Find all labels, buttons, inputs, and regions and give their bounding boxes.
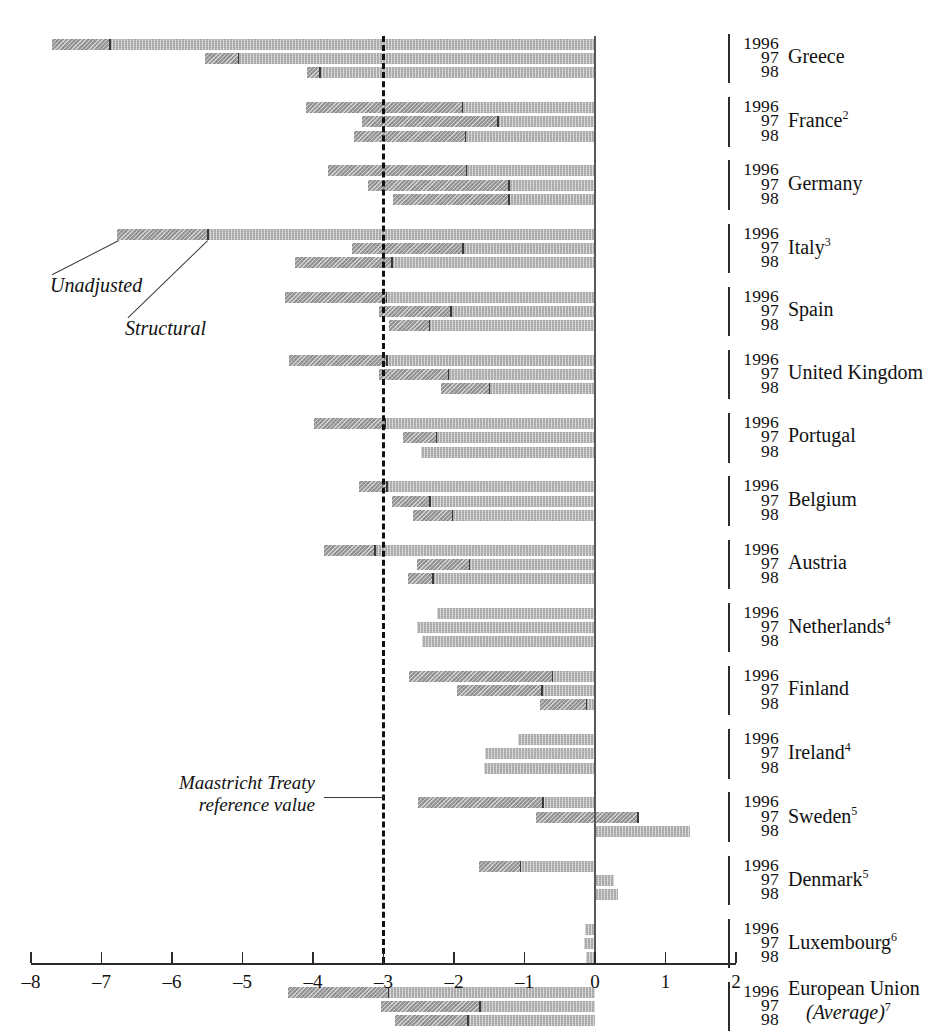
structural-boundary-marker: [207, 229, 209, 240]
label-group-rule: [728, 34, 730, 83]
bar-row: [393, 194, 595, 205]
zero-axis-line: [594, 36, 596, 963]
bar-segment-unadjusted: [408, 573, 595, 584]
bar-segment-unadjusted: [422, 636, 595, 647]
bar-segment-unadjusted: [52, 39, 595, 50]
year-label-98: 98: [733, 820, 779, 841]
x-axis-tick-label: –6: [152, 971, 192, 993]
label-group-rule: [728, 540, 730, 589]
x-axis-tick: [594, 952, 595, 963]
bar-row: [408, 573, 595, 584]
bar-segment-structural: [479, 861, 520, 872]
structural-boundary-marker: [374, 545, 376, 556]
bar-row: [484, 763, 595, 774]
bar-segment-structural: [381, 1001, 480, 1012]
structural-boundary-marker: [541, 685, 543, 696]
x-axis-tick: [453, 952, 454, 963]
country-label-greece: Greece: [788, 45, 845, 68]
bar-row: [117, 229, 595, 240]
bar-row: [306, 102, 595, 113]
label-group-rule: [728, 287, 730, 336]
x-axis-tick-label: –1: [505, 971, 545, 993]
structural-boundary-marker: [508, 180, 510, 191]
footnote-marker: 6: [891, 930, 897, 944]
footnote-marker: 7: [885, 1000, 891, 1014]
country-label-france: France2: [788, 108, 848, 132]
unadjusted-leader-line: [52, 240, 119, 275]
label-group-rule: [728, 982, 730, 1031]
x-axis-tick: [524, 952, 525, 963]
bar-segment-structural: [409, 671, 553, 682]
year-label-98: 98: [733, 567, 779, 588]
structural-boundary-marker: [386, 481, 388, 492]
bar-row: [418, 797, 595, 808]
bar-segment-unadjusted: [518, 734, 595, 745]
label-group-rule: [728, 603, 730, 652]
x-axis-line: [31, 963, 736, 965]
structural-boundary-marker: [489, 383, 491, 394]
bar-segment-unadjusted: [584, 938, 595, 949]
structural-boundary-marker: [637, 812, 639, 823]
structural-boundary-marker: [429, 320, 431, 331]
bar-segment-structural: [403, 432, 436, 443]
label-group-rule: [728, 476, 730, 525]
year-label-98: 98: [733, 883, 779, 904]
footnote-marker: 5: [862, 867, 868, 881]
x-axis-tick-label: 0: [575, 971, 615, 993]
structural-boundary-marker: [319, 67, 321, 78]
structural-boundary-marker: [469, 559, 471, 570]
bar-row: [379, 306, 595, 317]
country-label-spain: Spain: [788, 298, 834, 321]
country-label-austria: Austria: [788, 551, 847, 574]
year-label-98: 98: [733, 757, 779, 778]
bar-segment-structural: [117, 229, 208, 240]
year-label-98: 98: [733, 377, 779, 398]
x-axis-tick: [171, 952, 172, 963]
bar-segment-structural: [540, 699, 587, 710]
bar-segment-structural: [392, 496, 430, 507]
maastricht-reference-line: [382, 36, 385, 963]
year-label-98: 98: [733, 1009, 779, 1030]
bar-row: [352, 243, 595, 254]
label-group-rule: [728, 919, 730, 968]
bar-segment-unadjusted: [595, 826, 690, 837]
bar-row: [324, 545, 595, 556]
bar-segment-structural: [418, 797, 543, 808]
label-group-rule: [728, 413, 730, 462]
annotation-structural: Structural: [125, 317, 206, 340]
year-label-98: 98: [733, 946, 779, 967]
structural-boundary-marker: [462, 243, 464, 254]
bar-segment-unadjusted: [421, 447, 595, 458]
structural-boundary-marker: [386, 292, 388, 303]
bar-row: [381, 1001, 595, 1012]
bar-row: [536, 812, 638, 823]
label-group-rule: [728, 729, 730, 778]
bar-row: [417, 559, 595, 570]
bar-row: [457, 685, 595, 696]
x-axis-tick-label: –8: [11, 971, 51, 993]
bar-row: [368, 180, 595, 191]
country-label-luxembourg: Luxembourg6: [788, 930, 897, 954]
country-label-italy: Italy3: [788, 235, 831, 259]
structural-boundary-marker: [462, 102, 464, 113]
structural-boundary-marker: [497, 116, 499, 127]
bar-row: [441, 383, 595, 394]
bar-segment-structural: [295, 257, 392, 268]
country-label-finland: Finland: [788, 677, 849, 700]
bar-row: [359, 481, 595, 492]
x-axis-tick: [101, 952, 102, 963]
x-axis-tick: [242, 952, 243, 963]
structural-boundary-marker: [386, 355, 388, 366]
bar-row: [403, 432, 595, 443]
country-label-ireland: Ireland4: [788, 740, 851, 764]
bar-row: [289, 355, 595, 366]
country-label-belgium: Belgium: [788, 488, 857, 511]
bar-row: [584, 938, 595, 949]
annotation-unadjusted: Unadjusted: [50, 274, 142, 297]
bar-row: [485, 748, 595, 759]
bar-segment-structural: [379, 369, 448, 380]
bar-row: [518, 734, 595, 745]
bar-segment-structural: [205, 53, 238, 64]
bar-segment-structural: [395, 1015, 468, 1026]
